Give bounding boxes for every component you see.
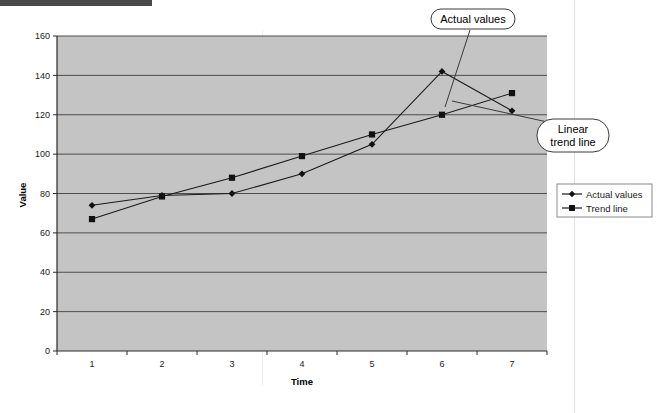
y-tick-label: 100 [35, 149, 50, 159]
x-tick-label: 1 [89, 359, 94, 369]
y-tick-label: 120 [35, 110, 50, 120]
x-tick-label: 5 [369, 359, 374, 369]
y-tick-label: 60 [40, 228, 50, 238]
x-tick-label: 6 [439, 359, 444, 369]
data-point-square [229, 175, 235, 181]
data-point-square [159, 193, 165, 199]
y-tick-label: 20 [40, 307, 50, 317]
legend-label-trend-line: Trend line [586, 203, 628, 214]
data-point-square [89, 216, 95, 222]
actual-values-callout-label: Actual values [440, 13, 506, 25]
y-tick-label: 160 [35, 31, 50, 41]
x-tick-label: 7 [509, 359, 514, 369]
x-tick-label: 4 [299, 359, 304, 369]
x-axis-ticks: 1234567 [57, 351, 547, 369]
x-tick-label: 3 [229, 359, 234, 369]
data-point-square [509, 90, 515, 96]
data-point-square [299, 153, 305, 159]
legend-label-actual-values: Actual values [586, 189, 643, 200]
chart-page: 020406080100120140160 1234567 Value Time… [0, 0, 657, 413]
y-axis-title: Value [17, 183, 28, 208]
linear-trend-line-callout-label-line2: trend line [550, 136, 595, 148]
linear-trend-line-callout-label-line1: Linear [558, 123, 589, 135]
y-tick-label: 40 [40, 267, 50, 277]
line-chart: 020406080100120140160 1234567 Value Time… [0, 0, 657, 413]
linear-trend-line-callout: Linear trend line [537, 119, 609, 152]
data-point-square [439, 112, 445, 118]
y-axis-ticks: 020406080100120140160 [35, 31, 57, 356]
x-axis-title: Time [291, 376, 313, 387]
square-icon [569, 205, 575, 211]
data-point-square [369, 131, 375, 137]
y-tick-label: 140 [35, 71, 50, 81]
x-tick-label: 2 [159, 359, 164, 369]
y-tick-label: 80 [40, 189, 50, 199]
actual-values-callout: Actual values [431, 9, 515, 29]
y-tick-label: 0 [45, 346, 50, 356]
chart-legend: Actual values Trend line [557, 184, 652, 217]
